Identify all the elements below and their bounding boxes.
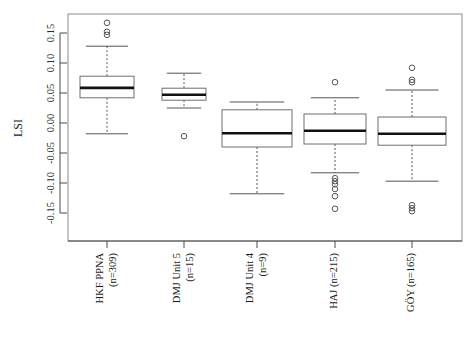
- box-group: [80, 20, 134, 134]
- x-category-label: (n=15): [184, 253, 196, 282]
- outlier-point: [332, 79, 338, 85]
- box-group: [222, 102, 292, 194]
- outlier-point: [409, 65, 415, 71]
- x-category-label: DMJ Unit 4: [244, 252, 255, 303]
- y-tick-label: 0.05: [45, 84, 56, 102]
- outlier-point: [332, 193, 338, 199]
- y-tick-label: -0.05: [45, 142, 56, 164]
- x-category-label: GÖY (n=165): [405, 253, 417, 312]
- x-category-label: (n=9): [257, 253, 269, 277]
- y-tick-label: 0.15: [45, 24, 56, 42]
- y-tick-label: 0.10: [45, 54, 56, 72]
- x-category-label: (n=309): [107, 253, 119, 287]
- box-series: [80, 20, 446, 214]
- x-category-label: HAJ (n=215): [328, 253, 340, 309]
- y-tick-label: -0.15: [45, 202, 56, 224]
- y-tick-label: -0.10: [45, 172, 56, 194]
- x-category-label: HKF PPNA: [94, 253, 105, 304]
- box-group: [378, 65, 446, 214]
- box-iqr: [304, 114, 366, 144]
- box-iqr: [378, 117, 446, 145]
- box-iqr: [222, 110, 292, 147]
- box-group: [162, 73, 206, 139]
- outlier-point: [181, 133, 187, 139]
- y-axis-title: LSI: [11, 119, 25, 137]
- x-axis: [68, 241, 462, 248]
- y-tick-label: 0.00: [45, 114, 56, 132]
- x-axis-labels: HKF PPNA(n=309)DMJ Unit 5(n=15)DMJ Unit …: [94, 252, 417, 312]
- x-category-label: DMJ Unit 5: [171, 253, 182, 303]
- y-axis-ticks: 0.150.100.050.00-0.05-0.10-0.15: [45, 24, 67, 224]
- box-group: [304, 79, 366, 211]
- plot-canvas: LSI 0.150.100.050.00-0.05-0.10-0.15 HKF …: [0, 0, 474, 348]
- outlier-point: [104, 20, 110, 26]
- boxplot-chart: LSI 0.150.100.050.00-0.05-0.10-0.15 HKF …: [0, 0, 474, 348]
- outlier-point: [332, 206, 338, 212]
